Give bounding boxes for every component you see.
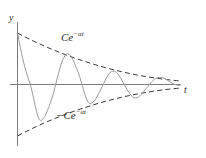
lower-envelope-curve [18,88,181,136]
damped-oscillation-figure: y t Ce−αt −Ce−αt [0,0,206,158]
lower-envelope-base: −Ce [56,109,76,121]
lower-envelope-exponent: −αt [76,108,86,116]
t-axis-label: t [184,85,187,95]
upper-envelope-label: Ce−αt [61,32,84,43]
upper-envelope-exponent: −αt [73,30,83,38]
figure-canvas [0,0,206,158]
lower-envelope-label: −Ce−αt [56,110,86,121]
damped-oscillation-curve [18,33,180,121]
upper-envelope-base: Ce [61,31,73,43]
y-axis-label: y [9,13,13,23]
upper-envelope-curve [18,33,181,81]
